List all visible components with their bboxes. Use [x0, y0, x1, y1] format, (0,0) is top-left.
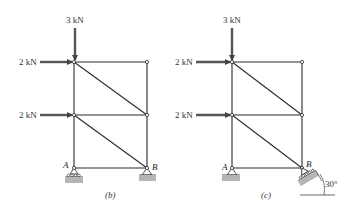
load-2kn-mid-b: 2 kN	[19, 110, 72, 120]
caption-c: (c)	[261, 190, 271, 200]
truss-c: 3 kN 2 kN 2 kN A	[175, 15, 338, 200]
node-label-b: B	[306, 159, 312, 169]
load-label: 3 kN	[66, 15, 84, 25]
load-3kn-c: 3 kN	[223, 15, 241, 60]
inclined-roller-support-b-c: B 30°	[293, 159, 338, 195]
angle-label: 30°	[325, 179, 338, 189]
roller-support-a-b: A	[62, 160, 83, 183]
truss-b: 3 kN 2 kN 2 kN A	[19, 15, 158, 200]
load-2kn-mid-c: 2 kN	[175, 110, 230, 120]
load-label: 2 kN	[19, 57, 37, 67]
node-label-a: A	[62, 160, 69, 170]
truss-c-members	[232, 62, 302, 168]
truss-diagrams: 3 kN 2 kN 2 kN A	[0, 0, 347, 213]
load-label: 2 kN	[19, 110, 37, 120]
caption-b: (b)	[105, 190, 116, 200]
pin-support-a-c: A	[221, 162, 240, 181]
load-label: 2 kN	[175, 57, 193, 67]
load-label: 2 kN	[175, 110, 193, 120]
load-label: 3 kN	[223, 15, 241, 25]
truss-b-members	[74, 62, 147, 168]
load-2kn-top-c: 2 kN	[175, 57, 230, 67]
load-3kn-b: 3 kN	[66, 15, 84, 60]
node-label-b: B	[152, 162, 158, 172]
node-label-a: A	[221, 162, 228, 172]
load-2kn-top-b: 2 kN	[19, 57, 72, 67]
